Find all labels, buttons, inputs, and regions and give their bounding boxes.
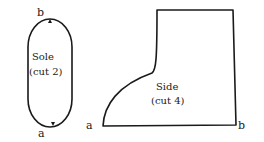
- pattern-diagram: b a Sole (cut 2) a b Side (cut 4): [0, 0, 264, 142]
- side-left-label: a: [86, 119, 93, 132]
- side-right-label: b: [238, 119, 245, 132]
- sole-bottom-label: a: [38, 127, 45, 140]
- sole-top-label: b: [37, 6, 44, 19]
- sole-note: (cut 2): [29, 66, 63, 77]
- side-title: Side: [156, 81, 178, 92]
- sole-title: Sole: [32, 51, 54, 62]
- side-outline: [103, 10, 236, 126]
- sole-bottom-marker: [51, 122, 55, 126]
- side-note: (cut 4): [151, 95, 185, 106]
